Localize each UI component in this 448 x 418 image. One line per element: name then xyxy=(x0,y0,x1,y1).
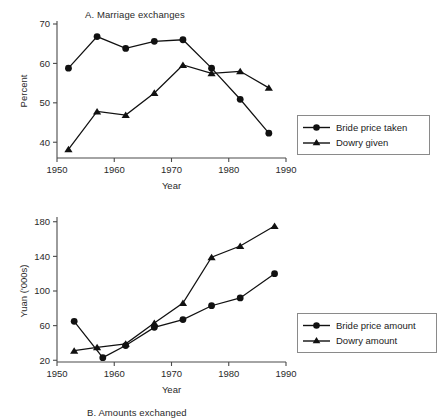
svg-text:1990: 1990 xyxy=(275,164,296,175)
legend-item-bride-price-amount: Bride price amount xyxy=(303,318,429,333)
svg-text:140: 140 xyxy=(34,251,50,262)
svg-text:50: 50 xyxy=(39,97,50,108)
svg-text:180: 180 xyxy=(34,216,50,227)
svg-text:Year: Year xyxy=(162,180,181,191)
svg-text:1990: 1990 xyxy=(275,368,296,379)
svg-text:1950: 1950 xyxy=(46,164,67,175)
circle-marker-icon xyxy=(303,122,330,133)
legend-item-bride-price-taken: Bride price taken xyxy=(303,120,422,135)
legend-label: Dowry given xyxy=(336,137,388,148)
legend-item-dowry-amount: Dowry amount xyxy=(303,333,429,348)
svg-text:100: 100 xyxy=(34,285,50,296)
legend-item-dowry-given: Dowry given xyxy=(303,135,422,150)
svg-text:20: 20 xyxy=(39,355,50,366)
svg-text:Yuan ('000s): Yuan ('000s) xyxy=(18,264,29,317)
svg-text:1980: 1980 xyxy=(218,368,239,379)
legend-label: Bride price amount xyxy=(336,320,416,331)
triangle-marker-icon xyxy=(303,137,330,148)
svg-text:40: 40 xyxy=(39,137,50,148)
svg-text:1960: 1960 xyxy=(104,164,125,175)
svg-text:Year: Year xyxy=(162,384,181,395)
legend-label: Dowry amount xyxy=(336,335,397,346)
panel-marriage-exchanges: A. Marriage exchanges 405060701950196019… xyxy=(0,0,448,200)
svg-text:1980: 1980 xyxy=(218,164,239,175)
legend-label: Bride price taken xyxy=(336,122,407,133)
chart-a-canvas: 4050607019501960197019801990YearPercent xyxy=(0,0,448,200)
svg-text:1950: 1950 xyxy=(46,368,67,379)
svg-text:1960: 1960 xyxy=(104,368,125,379)
chart-b-canvas: 206010014018019501960197019801990YearYua… xyxy=(0,200,448,411)
svg-text:60: 60 xyxy=(39,58,50,69)
svg-text:Percent: Percent xyxy=(18,74,29,107)
circle-marker-icon xyxy=(303,320,330,331)
triangle-marker-icon xyxy=(303,335,330,346)
svg-text:70: 70 xyxy=(39,18,50,29)
svg-text:60: 60 xyxy=(39,320,50,331)
svg-text:1970: 1970 xyxy=(161,368,182,379)
legend-panel-b: Bride price amount Dowry amount xyxy=(297,313,437,353)
panel-amounts-exchanged: B. Amounts exchanged 2060100140180195019… xyxy=(0,200,448,411)
legend-panel-a: Bride price taken Dowry given xyxy=(297,115,430,155)
svg-text:1970: 1970 xyxy=(161,164,182,175)
